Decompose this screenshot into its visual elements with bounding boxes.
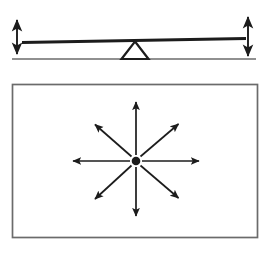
arrow-up-right bbox=[141, 124, 179, 157]
arrow-down-right bbox=[141, 166, 179, 199]
figure-root: Lever with fulcrum above a rectangle con… bbox=[0, 0, 272, 253]
triangular-fulcrum bbox=[122, 42, 149, 60]
diagram-canvas bbox=[0, 0, 272, 253]
radiating-panel bbox=[13, 85, 258, 238]
center-point bbox=[132, 157, 141, 166]
lever-panel bbox=[12, 17, 256, 59]
arrow-down-left bbox=[95, 166, 132, 200]
arrow-up-left bbox=[95, 125, 132, 157]
